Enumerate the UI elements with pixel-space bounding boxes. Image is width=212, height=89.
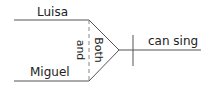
subject-miguel: Miguel: [30, 65, 70, 79]
predicate-can-sing: can sing: [148, 34, 198, 48]
subject-luisa: Luisa: [37, 5, 68, 19]
conjunction-and: and: [74, 40, 86, 61]
correlative-both: Both: [92, 37, 104, 63]
